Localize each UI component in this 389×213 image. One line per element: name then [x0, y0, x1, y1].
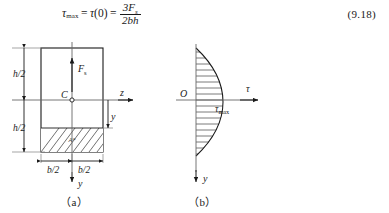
- label-b-half-left: b/2: [47, 165, 59, 175]
- label-y-distance: y: [110, 111, 116, 122]
- label-tau-axis: τ: [246, 83, 250, 94]
- figures-svg: A*: [0, 30, 389, 213]
- equals-sign-2: =: [110, 8, 117, 20]
- numerator-subscript: s: [135, 8, 138, 16]
- fraction-numerator: 3Fs: [121, 2, 140, 14]
- caption-figure-b: （b）: [188, 193, 217, 209]
- label-y-axis-a: y: [77, 178, 83, 189]
- tau-max-subscript: max: [66, 13, 78, 20]
- centroid-marker: [70, 98, 74, 102]
- label-y-axis-b: y: [202, 173, 208, 184]
- label-shear-force: Fs: [77, 63, 87, 76]
- equation-row: τmax = τ(0) = 3Fs 2bh (9.18): [0, 2, 389, 32]
- label-centroid: C: [61, 89, 68, 100]
- label-b-half-right: b/2: [78, 165, 90, 175]
- caption-figure-a: （a）: [60, 193, 88, 209]
- hatched-area: [38, 124, 118, 156]
- label-z-axis: z: [119, 87, 124, 98]
- numerator-text: 3F: [123, 1, 135, 13]
- figures-container: A*: [0, 30, 389, 213]
- stress-distribution-hatch: [190, 44, 240, 162]
- label-origin-b: O: [180, 88, 187, 99]
- equation-9-18: τmax = τ(0) = 3Fs 2bh: [62, 2, 142, 26]
- equation-number: (9.18): [348, 8, 376, 20]
- figure-b-group: O τ τmax y: [176, 44, 258, 184]
- figure-a-group: A*: [12, 42, 133, 189]
- tau-argument: (0): [94, 8, 107, 20]
- fraction: 3Fs 2bh: [120, 2, 141, 26]
- label-h-half-bottom: h/2: [13, 123, 25, 133]
- label-h-half-top: h/2: [13, 69, 25, 79]
- equals-sign-1: =: [81, 8, 88, 20]
- figure-page: τmax = τ(0) = 3Fs 2bh (9.18): [0, 0, 389, 213]
